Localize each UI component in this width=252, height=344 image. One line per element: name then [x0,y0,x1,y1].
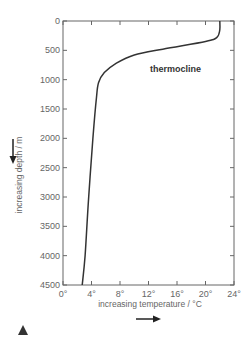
plot-frame [63,21,234,285]
x-tick-label: 20° [199,289,213,299]
x-tick-label: 24° [227,289,241,299]
x-tick-label: 16° [170,289,184,299]
x-tick-label: 4° [87,289,96,299]
x-axis-label: increasing temperature / °C [98,299,202,309]
y-tick-label: 3500 [40,221,60,231]
y-tick-label: 2500 [40,163,60,173]
x-tick-label: 12° [142,289,156,299]
y-tick-label: 0 [55,16,60,26]
x-tick-label: 8° [116,289,125,299]
triangle-marker-icon [18,325,28,335]
y-tick-label: 1000 [40,75,60,85]
y-tick-label: 2000 [40,133,60,143]
y-tick-label: 500 [45,45,60,55]
x-axis-ticks: 0°4°8°12°16°20°24° [59,21,242,299]
temperature-curve [82,21,220,285]
y-axis-label: increasing depth / m [14,137,24,214]
thermocline-label: thermocline [150,64,201,74]
depth-temperature-chart: 050010001500200025003000350040004500 0°4… [0,0,252,344]
temperature-arrow-icon [136,316,161,323]
y-tick-label: 4500 [40,280,60,290]
y-tick-label: 3000 [40,192,60,202]
y-tick-label: 1500 [40,104,60,114]
y-axis-ticks: 050010001500200025003000350040004500 [40,16,234,290]
x-tick-label: 0° [59,289,68,299]
y-tick-label: 4000 [40,251,60,261]
